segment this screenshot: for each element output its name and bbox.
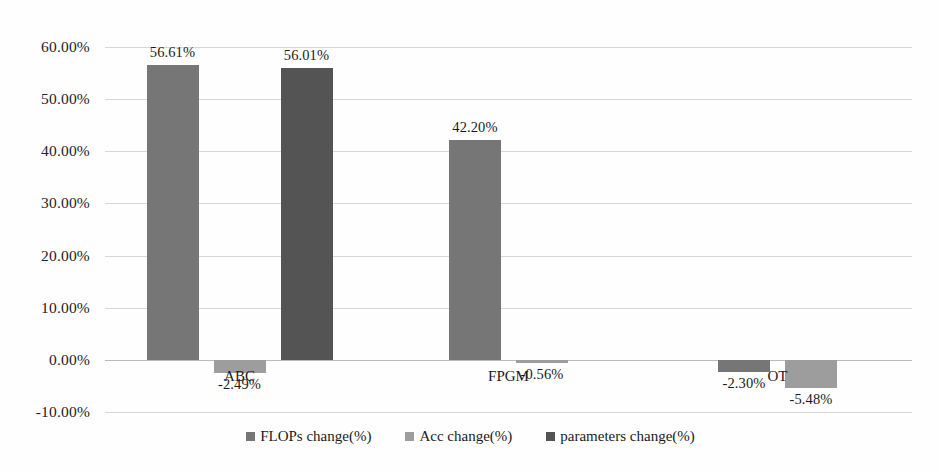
x-axis-category-label-fpgm: FPGM xyxy=(488,368,529,385)
legend-item-label: FLOPs change(%) xyxy=(260,428,371,445)
chart-legend: FLOPs change(%)Acc change(%)parameters c… xyxy=(0,428,941,445)
gridline xyxy=(105,308,912,309)
bar-fpgm-acc xyxy=(516,360,568,363)
x-axis-category-label-abc: ABC xyxy=(224,368,255,385)
legend-item-label: parameters change(%) xyxy=(560,428,695,445)
bar-value-label: 56.61% xyxy=(150,44,195,61)
legend-item-parameters[interactable]: parameters change(%) xyxy=(546,428,695,445)
bar-value-label: 56.01% xyxy=(284,47,329,64)
bar-fpgm-flops xyxy=(449,140,501,360)
y-axis-tick-label: 40.00% xyxy=(41,142,90,160)
y-axis-tick-label: 50.00% xyxy=(41,90,90,108)
bar-value-label: -5.48% xyxy=(790,391,833,408)
bar-chart: 60.00%50.00%40.00%30.00%20.00%10.00%0.00… xyxy=(0,0,941,471)
legend-swatch-icon xyxy=(546,432,555,441)
y-axis-tick-label: -10.00% xyxy=(36,403,90,421)
legend-item-acc[interactable]: Acc change(%) xyxy=(405,428,512,445)
gridline xyxy=(105,412,912,413)
bar-abc-parameters xyxy=(281,68,333,360)
bar-ot-acc xyxy=(785,360,837,389)
y-axis-tick-label: 60.00% xyxy=(41,38,90,56)
bar-abc-flops xyxy=(147,65,199,360)
bar-value-label: 42.20% xyxy=(452,119,497,136)
gridline xyxy=(105,99,912,100)
legend-item-flops[interactable]: FLOPs change(%) xyxy=(246,428,371,445)
bar-value-label: -2.30% xyxy=(723,375,766,392)
legend-swatch-icon xyxy=(246,432,255,441)
gridline xyxy=(105,256,912,257)
y-axis-tick-label: 0.00% xyxy=(49,351,90,369)
y-axis-tick-label: 20.00% xyxy=(41,247,90,265)
gridline xyxy=(105,151,912,152)
plot-area: 56.61%-2.49%56.01%ABC42.20%-0.56%FPGM-2.… xyxy=(105,47,912,412)
x-axis-category-label-ot: OT xyxy=(768,368,788,385)
gridline xyxy=(105,47,912,48)
gridline xyxy=(105,203,912,204)
y-axis-tick-label: 10.00% xyxy=(41,299,90,317)
bar-ot-flops xyxy=(718,360,770,372)
y-axis-tick-label: 30.00% xyxy=(41,194,90,212)
legend-item-label: Acc change(%) xyxy=(419,428,512,445)
legend-swatch-icon xyxy=(405,432,414,441)
y-axis: 60.00%50.00%40.00%30.00%20.00%10.00%0.00… xyxy=(0,47,98,412)
